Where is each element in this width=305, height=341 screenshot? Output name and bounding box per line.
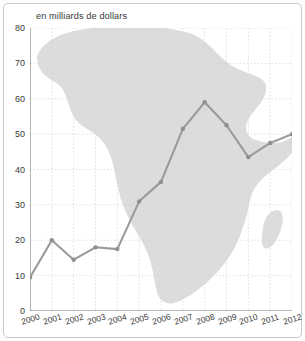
y-axis-tick-label: 60 bbox=[3, 94, 25, 104]
chart-title: en milliards de dollars bbox=[36, 11, 127, 21]
y-axis-tick-label: 10 bbox=[3, 271, 25, 281]
y-axis-tick-label: 40 bbox=[3, 165, 25, 175]
y-axis-tick-label: 0 bbox=[3, 306, 25, 316]
plot-area bbox=[30, 28, 292, 311]
y-axis-tick-label: 80 bbox=[3, 23, 25, 33]
y-axis-tick-label: 20 bbox=[3, 235, 25, 245]
y-axis-tick-label: 30 bbox=[3, 200, 25, 210]
y-axis-tick-label: 70 bbox=[3, 58, 25, 68]
figure-container: en milliards de dollars 0102030405060708… bbox=[0, 0, 305, 341]
y-axis-tick-label: 50 bbox=[3, 129, 25, 139]
series-layer bbox=[30, 28, 292, 311]
